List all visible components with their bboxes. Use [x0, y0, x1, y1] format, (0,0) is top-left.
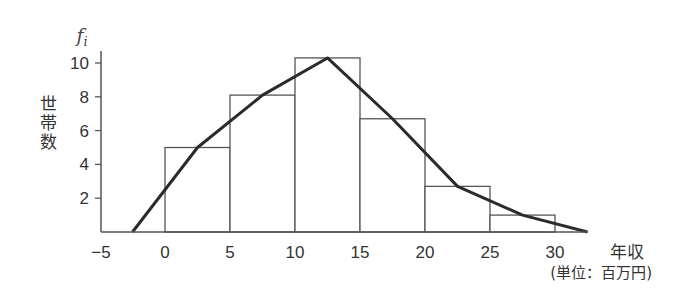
x-tick-label: 15: [351, 243, 370, 262]
x-tick-label: 30: [546, 243, 565, 262]
x-axis-tick-labels: −5051015202530: [91, 243, 564, 262]
histogram-bar-5-10: [230, 95, 295, 232]
y-axis-title: 世帯数: [40, 94, 57, 152]
histogram-bars: [165, 58, 555, 232]
x-tick-label: 5: [225, 243, 234, 262]
histogram-bar-0-5: [165, 148, 230, 233]
y-tick-label: 6: [80, 122, 89, 141]
x-tick-label: 10: [286, 243, 305, 262]
histogram-bar-25-30: [490, 215, 555, 232]
y-tick-label: 2: [80, 189, 89, 208]
histogram-bar-20-25: [425, 186, 490, 232]
histogram-bar-10-15: [295, 58, 360, 232]
x-axis-unit: (単位：百万円): [550, 264, 652, 282]
y-axis-title-char: 帯: [40, 113, 57, 133]
x-axis-title: 年収: [610, 242, 644, 262]
y-tick-label: 8: [80, 88, 89, 107]
x-tick-label: −5: [91, 243, 110, 262]
x-tick-label: 25: [481, 243, 500, 262]
y-tick-label: 10: [70, 54, 89, 73]
y-axis-symbol: fi: [74, 24, 87, 49]
histogram-bar-15-20: [360, 119, 425, 232]
y-tick-label: 4: [80, 155, 89, 174]
y-axis-ticks: 246810: [70, 54, 101, 208]
y-axis-title-char: 数: [40, 132, 57, 152]
x-tick-label: 20: [416, 243, 435, 262]
x-tick-label: 0: [160, 243, 169, 262]
y-axis-title-char: 世: [40, 94, 57, 114]
histogram-chart: 246810 −5051015202530 fi 世帯数 年収 (単位：百万円): [0, 0, 686, 303]
